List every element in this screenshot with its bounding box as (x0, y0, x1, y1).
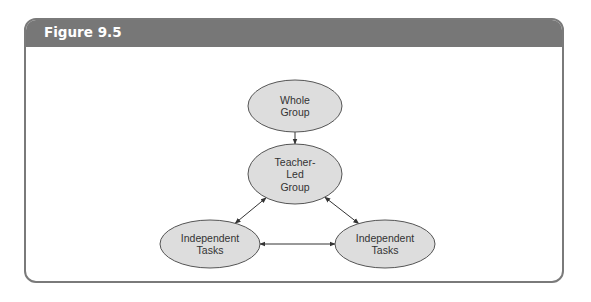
node-label: Tasks (197, 244, 224, 256)
node-label: Whole (280, 94, 310, 106)
node-label: Teacher- (275, 156, 316, 168)
node-label: Tasks (372, 244, 399, 256)
node-teacher-led-group: Teacher-LedGroup (248, 144, 342, 204)
node-label: Independent (181, 232, 239, 244)
edge-teacher-led-group-to-independent-tasks-right (325, 197, 359, 223)
node-label: Group (280, 181, 309, 193)
node-independent-tasks-left: IndependentTasks (160, 220, 260, 268)
edge-teacher-led-group-to-independent-tasks-left (235, 198, 266, 224)
node-label: Group (280, 106, 309, 118)
node-label: Led (286, 168, 304, 180)
node-whole-group: WholeGroup (248, 80, 342, 132)
diagram-canvas: WholeGroupTeacher-LedGroupIndependentTas… (0, 0, 591, 302)
node-independent-tasks-right: IndependentTasks (335, 220, 435, 268)
node-label: Independent (356, 232, 414, 244)
